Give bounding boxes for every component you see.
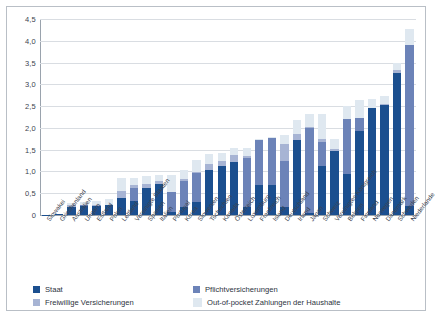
x-label-slot: Vereinigte Staaten xyxy=(128,216,141,278)
legend-label: Out-of-pocket Zahlungen der Haushalte xyxy=(207,298,340,307)
bar-segment xyxy=(380,96,388,103)
bar-segment xyxy=(318,142,326,166)
bar-segment xyxy=(393,73,401,215)
bar-segment xyxy=(230,155,238,162)
bar-slot xyxy=(65,19,78,215)
x-label-slot: Polen xyxy=(103,216,116,278)
bar-segment xyxy=(142,176,150,184)
legend-swatch-icon xyxy=(193,298,202,307)
bar-segment xyxy=(330,139,338,149)
x-label-slot: Luxemburg xyxy=(241,216,254,278)
x-label-slot: Lettland xyxy=(115,216,128,278)
bar-segment xyxy=(405,29,413,45)
x-label-slot: Norwegen xyxy=(366,216,379,278)
x-label-slot: Dänemark xyxy=(378,216,391,278)
y-tick-label: 2,0 xyxy=(25,123,36,132)
bar-slot xyxy=(178,19,191,215)
bar-slot xyxy=(115,19,128,215)
x-label-slot: Slowakei xyxy=(40,216,53,278)
stacked-bar[interactable] xyxy=(305,114,313,215)
x-label-slot: Schweden xyxy=(391,216,404,278)
legend-item[interactable]: Pflichtversicherungen xyxy=(193,283,403,296)
bar-slot xyxy=(266,19,279,215)
bar-segment xyxy=(343,106,351,119)
bar-segment xyxy=(305,128,313,213)
stacked-bar[interactable] xyxy=(393,63,401,215)
legend-swatch-icon xyxy=(193,286,200,293)
y-tick-label: 1,0 xyxy=(25,167,36,176)
stacked-bar[interactable] xyxy=(280,135,288,215)
x-label-slot: Finnland xyxy=(353,216,366,278)
bar-segment xyxy=(280,144,288,161)
bar-segment xyxy=(318,114,326,139)
legend-swatch-icon xyxy=(33,299,40,306)
bar-slot xyxy=(291,19,304,215)
x-label-slot: Spanien xyxy=(140,216,153,278)
legend-item[interactable]: Freiwillige Versicherungen xyxy=(33,296,193,309)
legend-label: Staat xyxy=(45,285,63,294)
bar-slot xyxy=(203,19,216,215)
bar-segment xyxy=(343,119,351,174)
x-label-slot: Schweiz xyxy=(316,216,329,278)
x-label-slot: Österreich xyxy=(228,216,241,278)
stacked-bar[interactable] xyxy=(368,99,376,215)
stacked-bar[interactable] xyxy=(318,114,326,215)
bar-slot xyxy=(366,19,379,215)
bar-segment xyxy=(280,135,288,143)
bar-segment xyxy=(180,170,188,180)
legend-label: Pflichtversicherungen xyxy=(205,285,278,294)
bar-slot xyxy=(328,19,341,215)
x-label-slot: Portugal xyxy=(165,216,178,278)
x-axis-labels: SlowakeiGriechenlandAustralienUngarnEstl… xyxy=(40,216,416,278)
bar-segment xyxy=(355,118,363,131)
bar-segment xyxy=(255,140,263,185)
bar-segment xyxy=(280,161,288,207)
bar-slot xyxy=(303,19,316,215)
bar-slot xyxy=(128,19,141,215)
bar-slot xyxy=(215,19,228,215)
bar-slot xyxy=(278,19,291,215)
legend-item[interactable]: Staat xyxy=(33,283,193,296)
x-label-slot: Kanada xyxy=(215,216,228,278)
y-tick-label: 4,5 xyxy=(25,15,36,24)
chart-frame: 00,51,01,52,02,53,03,54,04,5 SlowakeiGri… xyxy=(6,6,426,311)
chart-legend: StaatPflichtversicherungenFreiwillige Ve… xyxy=(33,283,403,309)
y-axis-ticks: 00,51,01,52,02,53,03,54,04,5 xyxy=(7,7,40,227)
x-label-slot: Belgien xyxy=(341,216,354,278)
x-label-slot: Australien xyxy=(65,216,78,278)
legend-swatch-icon xyxy=(33,286,40,293)
bar-segment xyxy=(393,63,401,71)
y-tick-label: 3,5 xyxy=(25,58,36,67)
legend-item[interactable]: Out-of-pocket Zahlungen der Haushalte xyxy=(193,296,403,309)
bar-slot xyxy=(228,19,241,215)
x-label-slot: Estland xyxy=(90,216,103,278)
bar-segment xyxy=(305,114,313,127)
bar-slot xyxy=(53,19,66,215)
y-tick-label: 1,5 xyxy=(25,145,36,154)
y-tick-label: 3,0 xyxy=(25,80,36,89)
y-tick-label: 2,5 xyxy=(25,102,36,111)
y-tick-label: 4,0 xyxy=(25,36,36,45)
x-label-slot: Japan xyxy=(303,216,316,278)
bar-slot xyxy=(78,19,91,215)
bar-segment xyxy=(355,100,363,119)
bar-segment xyxy=(243,148,251,156)
bar-segment xyxy=(405,45,413,206)
bar-segment xyxy=(117,191,125,198)
x-label-slot: Niederlande xyxy=(403,216,416,278)
bar-slot xyxy=(391,19,404,215)
stacked-bar[interactable] xyxy=(405,29,413,215)
x-label-slot: Italien xyxy=(153,216,166,278)
bar-slot xyxy=(40,19,53,215)
bar-slot xyxy=(316,19,329,215)
x-label-slot: Korea xyxy=(178,216,191,278)
bar-slot xyxy=(241,19,254,215)
bar-segment xyxy=(293,120,301,134)
bar-segment xyxy=(218,153,226,161)
y-tick-label: 0,5 xyxy=(25,189,36,198)
x-label-slot: Deutschland xyxy=(278,216,291,278)
bar-segment xyxy=(205,154,213,164)
bar-segment xyxy=(130,178,138,185)
x-label-slot: Island xyxy=(266,216,279,278)
y-tick-label: 0 xyxy=(32,211,36,220)
